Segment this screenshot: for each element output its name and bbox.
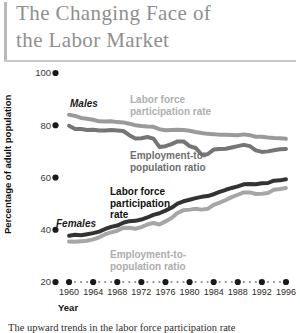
x-tick-dot: [235, 279, 241, 285]
x-tick-label: 1972: [131, 287, 151, 297]
x-axis-minor-dot: [182, 281, 184, 283]
x-axis-minor-dots: [74, 281, 281, 283]
title-divider: [4, 60, 296, 62]
x-axis-minor-dot: [80, 281, 82, 283]
x-axis-minor-dot: [279, 281, 281, 283]
x-axis-minor-dot: [225, 281, 227, 283]
y-tick-dot: [52, 279, 58, 285]
annotation-females-epr-label: Employment-to-population ratio: [110, 249, 186, 272]
x-axis-minor-dot: [243, 281, 245, 283]
series-line: [69, 188, 286, 242]
x-tick-label: 1964: [83, 287, 103, 297]
x-axis-minor-dot: [207, 281, 209, 283]
x-tick-label: 1976: [155, 287, 175, 297]
x-tick-dot: [283, 279, 289, 285]
x-tick-label: 1984: [204, 287, 224, 297]
x-tick-label: 1988: [228, 287, 248, 297]
y-tick-label: 100: [35, 67, 51, 78]
x-axis-minor-dot: [231, 281, 233, 283]
x-tick-label: 1992: [252, 287, 272, 297]
x-axis-minor-dot: [98, 281, 100, 283]
series-line: [69, 179, 286, 235]
x-axis-minor-dot: [267, 281, 269, 283]
x-axis-minor-dot: [273, 281, 275, 283]
x-tick-label: 1960: [59, 287, 79, 297]
x-axis-minor-dot: [110, 281, 112, 283]
x-axis-minor-dot: [158, 281, 160, 283]
x-tick-dot: [66, 279, 72, 285]
x-axis-minor-dot: [249, 281, 251, 283]
y-axis-ticks: 20406080100: [35, 67, 58, 287]
x-axis-minor-dot: [176, 281, 178, 283]
page-title: The Changing Face of the Labor Market: [16, 0, 296, 54]
annotation-females-group: Females: [56, 218, 96, 229]
y-axis-title: Percentage of adult population: [2, 94, 13, 234]
annotation-males-lfp-label: Labor forceparticipation rate: [130, 94, 212, 117]
x-axis-minor-dot: [128, 281, 130, 283]
x-tick-label: 1996: [276, 287, 296, 297]
series-line: [69, 115, 286, 139]
x-axis-minor-dot: [86, 281, 88, 283]
figure-caption: The upward trends in the labor force par…: [8, 322, 300, 333]
x-axis-minor-dot: [170, 281, 172, 283]
x-axis-minor-dot: [152, 281, 154, 283]
x-tick-dot: [162, 279, 168, 285]
x-tick-dot: [259, 279, 265, 285]
x-tick-dot: [114, 279, 120, 285]
x-tick-label: 1980: [180, 287, 200, 297]
annotation-males-group: Males: [70, 98, 98, 109]
x-axis-minor-dot: [74, 281, 76, 283]
x-tick-dot: [186, 279, 192, 285]
x-axis-minor-dot: [194, 281, 196, 283]
y-tick-label: 20: [40, 276, 51, 287]
y-tick-dot: [52, 70, 58, 76]
x-axis-minor-dot: [255, 281, 257, 283]
x-axis-minor-dot: [134, 281, 136, 283]
title-accent-rule: [4, 2, 7, 60]
y-tick-dot: [52, 122, 58, 128]
x-axis-minor-dot: [146, 281, 148, 283]
x-axis-minor-dot: [104, 281, 106, 283]
x-axis-minor-dot: [219, 281, 221, 283]
title-block: The Changing Face of the Labor Market: [0, 0, 300, 64]
annotation-males-epr-label: Employment-to-population ratio: [130, 150, 206, 173]
y-tick-dot: [52, 174, 58, 180]
y-tick-label: 80: [40, 120, 51, 131]
x-tick-dot: [211, 279, 217, 285]
annotation-females-lfp-label: Labor forceparticipationrate: [110, 186, 170, 220]
x-tick-dot: [90, 279, 96, 285]
x-tick-dot: [138, 279, 144, 285]
y-tick-label: 40: [40, 224, 51, 235]
data-series-group: [69, 115, 286, 242]
line-chart: 20406080100 1960196419681972197619801984…: [0, 64, 300, 314]
y-tick-label: 60: [40, 172, 51, 183]
series-annotations: MalesLabor forceparticipation rateEmploy…: [56, 94, 212, 272]
x-tick-label: 1968: [107, 287, 127, 297]
x-axis-minor-dot: [122, 281, 124, 283]
chart-container: 20406080100 1960196419681972197619801984…: [0, 64, 300, 314]
x-axis-minor-dot: [201, 281, 203, 283]
x-axis-title: Year: [58, 302, 78, 313]
